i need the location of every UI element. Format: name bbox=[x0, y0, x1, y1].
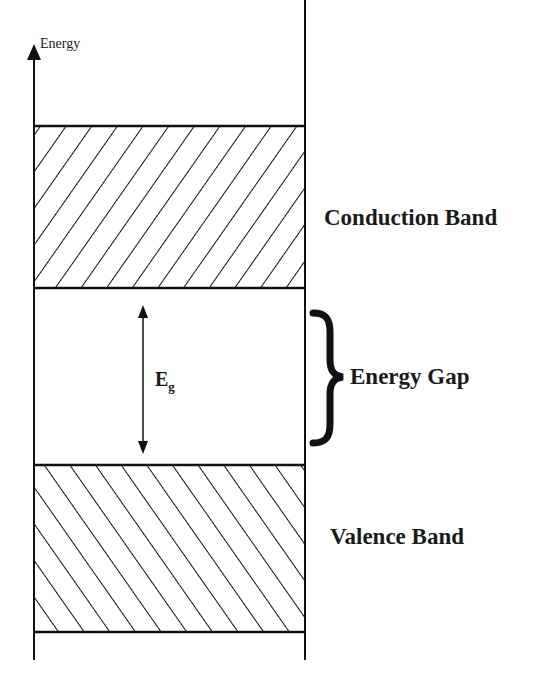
gap-double-arrow-icon bbox=[138, 305, 148, 454]
valence-band-label: Valence Band bbox=[330, 524, 464, 550]
energy-gap-label: Energy Gap bbox=[350, 364, 469, 390]
valence-band-rect bbox=[34, 465, 305, 632]
conduction-band-rect bbox=[34, 126, 305, 288]
eg-symbol-main: E bbox=[155, 368, 168, 390]
eg-symbol-subscript: g bbox=[168, 379, 175, 394]
band-diagram bbox=[0, 0, 548, 685]
eg-symbol: Eg bbox=[155, 368, 175, 395]
energy-axis-label: Energy bbox=[40, 36, 80, 52]
conduction-band-label: Conduction Band bbox=[324, 205, 497, 231]
gap-brace-icon bbox=[313, 313, 343, 443]
axis-arrowhead-icon bbox=[27, 44, 41, 60]
